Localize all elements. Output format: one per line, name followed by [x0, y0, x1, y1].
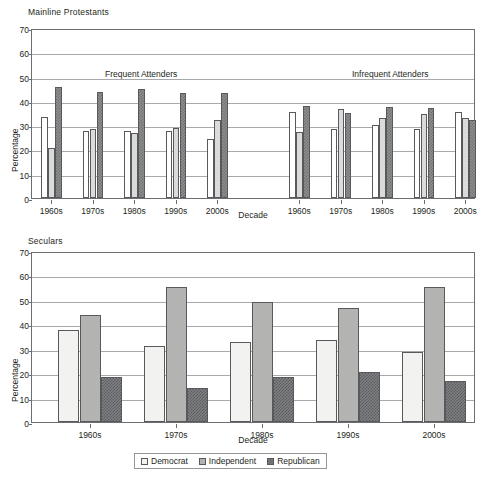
bar-independent-1960s — [296, 132, 303, 198]
x-tick-mark — [51, 200, 52, 204]
x-tick-mark — [382, 200, 383, 204]
bar-republican-1980s — [138, 89, 145, 198]
y-tick-mark — [29, 326, 32, 327]
bar-independent-1980s — [131, 133, 138, 198]
bar-democrat-1960s — [41, 117, 48, 198]
gridline — [32, 54, 474, 55]
bar-independent-1980s — [379, 118, 386, 198]
y-tick-mark — [29, 375, 32, 376]
y-tick-label: 10 — [20, 395, 29, 404]
bar-independent-1980s — [252, 302, 273, 422]
x-tick-mark — [434, 424, 435, 428]
panel-annotation: Frequent Attenders — [105, 69, 177, 79]
bar-republican-1990s — [359, 372, 380, 422]
bar-democrat-1980s — [230, 342, 251, 422]
chart2-plot-area: 0102030405060701960s1970s1980s1990s2000s — [31, 252, 475, 423]
bar-independent-2000s — [462, 118, 469, 198]
bar-independent-1970s — [166, 287, 187, 422]
y-tick-mark — [29, 400, 32, 401]
y-tick-label: 40 — [20, 99, 29, 108]
bar-republican-1960s — [55, 87, 62, 198]
bar-republican-1980s — [386, 107, 393, 198]
bar-democrat-1960s — [289, 112, 296, 198]
y-tick-mark — [29, 103, 32, 104]
y-tick-label: 20 — [20, 147, 29, 156]
bar-democrat-1970s — [331, 129, 338, 198]
chart-mainline-protestants: Mainline Protestants Percentage 01020304… — [0, 0, 480, 230]
x-tick-mark — [262, 424, 263, 428]
bar-independent-1990s — [173, 128, 180, 198]
y-tick-label: 30 — [20, 346, 29, 355]
x-tick-mark — [90, 424, 91, 428]
chart1-x-axis-label: Decade — [31, 210, 475, 220]
y-tick-mark — [29, 302, 32, 303]
x-tick-mark — [424, 200, 425, 204]
y-tick-mark — [29, 424, 32, 425]
x-tick-mark — [176, 424, 177, 428]
bar-republican-2000s — [469, 120, 476, 198]
bar-republican-1970s — [97, 92, 104, 198]
y-tick-mark — [29, 54, 32, 55]
bar-republican-1970s — [345, 113, 352, 198]
bar-democrat-1960s — [58, 330, 79, 422]
y-tick-label: 50 — [20, 74, 29, 83]
x-tick-mark — [341, 200, 342, 204]
chart-seculars: Seculars Percentage 0102030405060701960s… — [0, 230, 480, 491]
chart2-x-axis-label: Decade — [31, 435, 475, 445]
legend-item-independent[interactable]: Independent — [199, 456, 256, 466]
bar-republican-1970s — [187, 388, 208, 422]
y-tick-label: 60 — [20, 50, 29, 59]
bar-democrat-1970s — [83, 131, 90, 198]
y-tick-mark — [29, 127, 32, 128]
y-tick-label: 70 — [20, 249, 29, 258]
bar-independent-1990s — [338, 308, 359, 422]
chart2-title: Seculars — [28, 236, 63, 246]
panel-annotation: Infrequent Attenders — [352, 69, 429, 79]
chart1-plot-area: 0102030405060701960s1970s1980s1990s2000s… — [31, 29, 475, 199]
y-tick-label: 0 — [24, 420, 29, 429]
legend-item-democrat[interactable]: Democrat — [141, 456, 188, 466]
x-tick-mark — [465, 200, 466, 204]
gridline — [32, 79, 474, 80]
legend-label-independent: Independent — [209, 456, 256, 466]
y-tick-label: 60 — [20, 273, 29, 282]
bar-democrat-1970s — [144, 346, 165, 422]
bar-democrat-2000s — [455, 112, 462, 198]
bar-independent-1960s — [48, 148, 55, 198]
bar-democrat-2000s — [402, 352, 423, 422]
bar-democrat-2000s — [207, 139, 214, 198]
chart2-y-axis-label: Percentage — [10, 359, 20, 402]
bar-democrat-1990s — [414, 129, 421, 198]
legend: DemocratIndependentRepublican — [134, 453, 327, 469]
y-tick-label: 10 — [20, 171, 29, 180]
y-tick-label: 40 — [20, 322, 29, 331]
y-tick-label: 20 — [20, 371, 29, 380]
y-tick-mark — [29, 351, 32, 352]
y-tick-mark — [29, 253, 32, 254]
bar-republican-1990s — [428, 108, 435, 198]
bar-republican-1960s — [101, 377, 122, 422]
x-tick-mark — [176, 200, 177, 204]
bar-democrat-1990s — [166, 131, 173, 198]
bar-republican-1990s — [180, 93, 187, 198]
y-tick-mark — [29, 176, 32, 177]
bar-democrat-1990s — [316, 340, 337, 422]
x-tick-mark — [299, 200, 300, 204]
legend-swatch-democrat-icon — [141, 458, 148, 465]
y-tick-mark — [29, 79, 32, 80]
y-tick-mark — [29, 200, 32, 201]
legend-item-republican[interactable]: Republican — [267, 456, 320, 466]
y-tick-mark — [29, 30, 32, 31]
bar-democrat-1980s — [124, 131, 131, 198]
y-tick-label: 70 — [20, 26, 29, 35]
bar-independent-1990s — [421, 114, 428, 199]
bar-republican-2000s — [445, 381, 466, 422]
bar-independent-2000s — [214, 120, 221, 198]
gridline — [32, 277, 474, 278]
x-tick-mark — [217, 200, 218, 204]
y-tick-mark — [29, 277, 32, 278]
x-tick-mark — [348, 424, 349, 428]
legend-label-republican: Republican — [277, 456, 320, 466]
y-tick-mark — [29, 151, 32, 152]
chart1-y-axis-label: Percentage — [10, 129, 20, 172]
